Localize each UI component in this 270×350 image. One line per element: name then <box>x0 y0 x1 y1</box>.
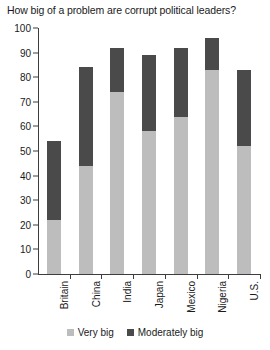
bar-segment-very-big[interactable] <box>47 220 61 274</box>
bar-group[interactable] <box>237 70 251 274</box>
y-axis-tick: 20 <box>5 219 38 230</box>
bar-group[interactable] <box>205 38 219 274</box>
y-axis-tick-label: 90 <box>5 47 31 58</box>
y-axis-tick-label: 20 <box>5 219 31 230</box>
y-axis-tick-mark <box>33 274 38 275</box>
legend-label: Very big <box>78 327 114 338</box>
bar-group[interactable] <box>79 67 93 274</box>
y-axis-tick: 70 <box>5 96 38 107</box>
bar-segment-moderately-big[interactable] <box>237 70 251 146</box>
y-axis-tick-mark <box>33 52 38 53</box>
bar-segment-moderately-big[interactable] <box>79 67 93 165</box>
y-axis-tick-mark <box>33 151 38 152</box>
bar-segment-very-big[interactable] <box>237 146 251 274</box>
y-axis-tick-label: 10 <box>5 244 31 255</box>
x-axis-category-label: China <box>91 281 102 307</box>
x-axis-category-label: U.S. <box>249 281 260 300</box>
bar-segment-very-big[interactable] <box>142 131 156 274</box>
bar-group[interactable] <box>142 55 156 274</box>
x-axis-category-label: Nigeria <box>217 281 228 313</box>
x-axis-tick-mark <box>260 274 261 279</box>
y-axis-tick: 80 <box>5 72 38 83</box>
y-axis-tick-label: 80 <box>5 72 31 83</box>
bar-segment-moderately-big[interactable] <box>142 55 156 131</box>
x-axis-tick-mark <box>133 274 134 279</box>
x-axis-category-label: Mexico <box>186 281 197 313</box>
chart-title: How big of a problem are corrupt politic… <box>7 4 236 16</box>
y-axis-tick-mark <box>33 126 38 127</box>
y-axis-tick-label: 30 <box>5 195 31 206</box>
y-axis-tick: 30 <box>5 195 38 206</box>
y-axis-tick-mark <box>33 249 38 250</box>
x-axis-tick-mark <box>70 274 71 279</box>
x-axis-tick-mark <box>228 274 229 279</box>
bar-segment-moderately-big[interactable] <box>205 38 219 70</box>
legend-swatch <box>67 329 74 336</box>
y-axis-tick: 40 <box>5 170 38 181</box>
y-axis-tick-mark <box>33 224 38 225</box>
y-axis-tick-mark <box>33 200 38 201</box>
bar-segment-very-big[interactable] <box>79 166 93 274</box>
bar-segment-moderately-big[interactable] <box>47 141 61 220</box>
bar-group[interactable] <box>110 48 124 274</box>
x-axis-category-label: India <box>122 281 133 303</box>
y-axis-tick: 60 <box>5 121 38 132</box>
plot-area: 0102030405060708090100 <box>38 28 260 274</box>
y-axis-tick-mark <box>33 28 38 29</box>
y-axis-tick-label: 100 <box>5 23 31 34</box>
x-axis-tick-mark <box>101 274 102 279</box>
x-axis-tick-mark <box>165 274 166 279</box>
bar-segment-very-big[interactable] <box>110 92 124 274</box>
y-axis-tick-mark <box>33 77 38 78</box>
legend-item[interactable]: Very big <box>67 327 114 338</box>
bar-segment-moderately-big[interactable] <box>174 48 188 117</box>
y-axis-tick-label: 50 <box>5 146 31 157</box>
x-axis-category-label: Japan <box>154 281 165 308</box>
bar-segment-moderately-big[interactable] <box>110 48 124 92</box>
y-axis-tick: 10 <box>5 244 38 255</box>
y-axis-tick-mark <box>33 175 38 176</box>
y-axis-tick: 0 <box>5 269 38 280</box>
chart-legend: Very bigModerately big <box>0 327 270 338</box>
x-axis-spine <box>38 274 260 275</box>
y-axis-tick: 90 <box>5 47 38 58</box>
bar-group[interactable] <box>47 141 61 274</box>
bar-chart-figure: How big of a problem are corrupt politic… <box>0 0 270 350</box>
bar-segment-very-big[interactable] <box>205 70 219 274</box>
legend-swatch <box>127 329 134 336</box>
y-axis-tick-label: 70 <box>5 96 31 107</box>
y-axis-tick-label: 60 <box>5 121 31 132</box>
y-axis-tick: 50 <box>5 146 38 157</box>
legend-item[interactable]: Moderately big <box>127 327 204 338</box>
x-axis-tick-mark <box>197 274 198 279</box>
x-axis-category-label: Britain <box>59 281 70 309</box>
bar-segment-very-big[interactable] <box>174 117 188 274</box>
legend-label: Moderately big <box>138 327 204 338</box>
y-axis-tick-mark <box>33 101 38 102</box>
y-axis-tick: 100 <box>5 23 38 34</box>
bar-group[interactable] <box>174 48 188 274</box>
y-axis-tick-label: 0 <box>5 269 31 280</box>
y-axis-tick-label: 40 <box>5 170 31 181</box>
